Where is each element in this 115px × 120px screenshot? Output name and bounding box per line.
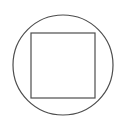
geometry-figure bbox=[0, 0, 115, 120]
circle-outline bbox=[13, 15, 113, 115]
figure-canvas bbox=[0, 0, 115, 120]
square-outline bbox=[31, 33, 95, 98]
